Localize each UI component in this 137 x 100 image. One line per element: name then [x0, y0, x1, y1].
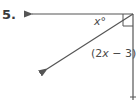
angle-label-2x-minus-3: (2x − 3)° — [91, 47, 137, 60]
angle-label-x: x° — [94, 15, 106, 28]
label-open: (2 — [91, 47, 102, 60]
label-rest: − 3)° — [109, 47, 137, 60]
diagonal-ray — [47, 14, 133, 69]
degree-symbol: ° — [101, 15, 107, 28]
